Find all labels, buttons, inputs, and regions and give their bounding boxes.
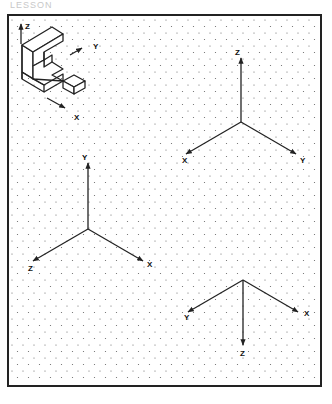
left-arrow-icon (186, 122, 241, 154)
axis-set-2-left-label: Z (28, 264, 33, 273)
axis-set-1-left-label: X (182, 156, 188, 165)
example-isometric-object (21, 24, 85, 108)
right-arrow-icon (243, 280, 298, 312)
dot-grid (11, 19, 315, 378)
left-arrow-icon (33, 229, 88, 261)
example-z-label: Z (25, 22, 30, 31)
y-axis-arrow-icon (70, 48, 82, 55)
right-arrow-icon (88, 229, 143, 261)
right-arrow-icon (241, 122, 296, 154)
axis-set-1-right-label: Y (300, 156, 306, 165)
axis-set-1-up-label: Z (235, 48, 240, 57)
axis-set-1 (186, 58, 296, 154)
axis-set-3-down-label: Z (240, 349, 245, 358)
axis-set-3-left-label: Y (184, 313, 190, 322)
drawing-canvas: Z Y X Z X Y Y Z X Z Y X (0, 0, 332, 404)
axis-set-2-right-label: X (147, 260, 153, 269)
x-axis-arrow-icon (47, 98, 65, 108)
axis-set-3-right-label: X (304, 309, 310, 318)
example-y-label: Y (93, 42, 99, 51)
axis-set-2-up-label: Y (82, 153, 88, 162)
example-x-label: X (74, 113, 80, 122)
axis-set-2 (33, 163, 143, 261)
left-arrow-icon (188, 280, 243, 312)
